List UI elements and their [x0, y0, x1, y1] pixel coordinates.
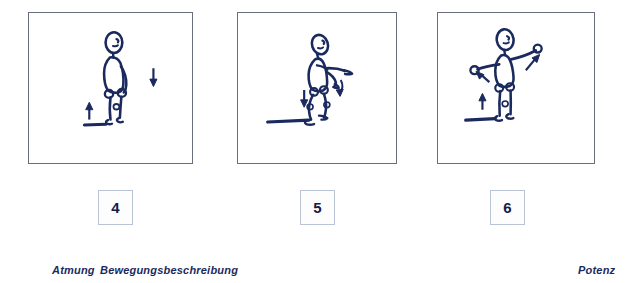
- panel-number-label: 5: [313, 200, 321, 215]
- caption-potenz: Potenz: [578, 264, 615, 276]
- caption-atmung: Atmung: [52, 264, 95, 276]
- caption-bewegungsbeschreibung: Bewegungsbeschreibung: [100, 264, 238, 276]
- arrow-up-right-at-right-hand: [526, 54, 540, 70]
- arrow-down-left-at-left-hand: [476, 71, 489, 82]
- illustration-panel-4: [28, 12, 193, 164]
- panel-number-label: 6: [503, 200, 511, 215]
- illustration-panel-6: [437, 12, 595, 164]
- arrow-down-right-of-figure: [150, 68, 157, 86]
- arrow-down-left-of-figure: [301, 90, 308, 107]
- stick-figure-standing-upright: [29, 13, 192, 163]
- stick-figure-arms-spread-wide: [438, 13, 594, 163]
- panel-number-box-4[interactable]: 4: [98, 190, 133, 225]
- panel-number-box-5[interactable]: 5: [300, 190, 335, 225]
- panel-number-label: 4: [111, 200, 119, 215]
- illustration-panel-5: [237, 12, 397, 164]
- arrow-up-left-of-feet: [86, 102, 93, 119]
- stick-figure-crouching-arms-forward: [238, 13, 396, 163]
- arrow-up-left-of-feet: [479, 93, 486, 109]
- panel-number-box-6[interactable]: 6: [490, 190, 525, 225]
- illustration-sheet: 4 5 6 Atmung Bewegungsbeschreibung Poten…: [0, 0, 629, 283]
